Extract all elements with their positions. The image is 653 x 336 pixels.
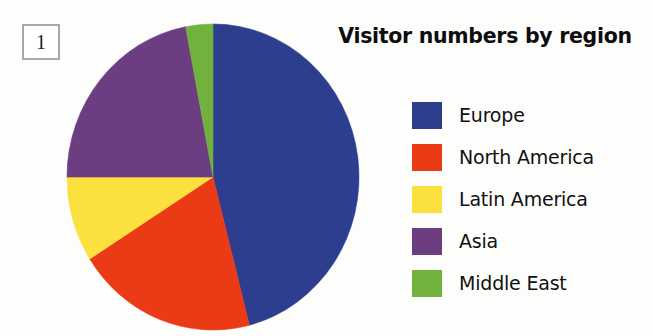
pie-slice-group: [67, 24, 359, 330]
chart-title: Visitor numbers by region: [322, 24, 648, 48]
chart-legend: EuropeNorth AmericaLatin AmericaAsiaMidd…: [412, 96, 642, 306]
figure-container: 1 Visitor numbers by region EuropeNorth …: [0, 0, 653, 336]
legend-label: Asia: [459, 230, 498, 252]
legend-swatch-icon: [412, 144, 442, 171]
legend-label: Middle East: [459, 272, 567, 294]
legend-label: Europe: [459, 104, 525, 126]
pie-chart: [66, 22, 360, 332]
legend-item-europe: Europe: [412, 96, 642, 134]
legend-label: Latin America: [459, 188, 588, 210]
legend-swatch-icon: [412, 270, 442, 297]
legend-swatch-icon: [412, 102, 442, 129]
legend-swatch-icon: [412, 186, 442, 213]
figure-number-label: 1: [36, 32, 46, 52]
legend-swatch-icon: [412, 228, 442, 255]
legend-item-asia: Asia: [412, 222, 642, 260]
legend-label: North America: [459, 146, 594, 168]
figure-number-box: 1: [22, 24, 60, 60]
legend-item-north-america: North America: [412, 138, 642, 176]
legend-item-latin-america: Latin America: [412, 180, 642, 218]
legend-item-middle-east: Middle East: [412, 264, 642, 302]
